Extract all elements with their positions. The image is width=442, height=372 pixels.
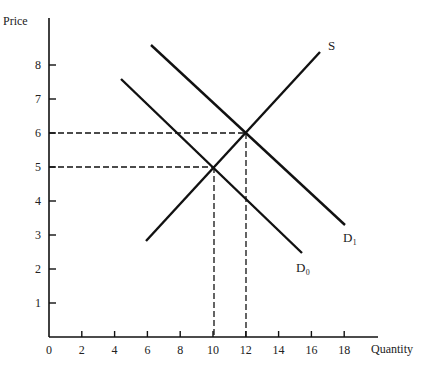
x-ticks: 024681012141618: [46, 331, 350, 357]
x-tick-label: 12: [240, 343, 252, 357]
y-tick-label: 5: [35, 160, 41, 174]
x-tick-label: 4: [112, 343, 118, 357]
y-tick-label: 4: [35, 194, 41, 208]
x-tick-label: 6: [144, 343, 150, 357]
x-tick-label: 2: [79, 343, 85, 357]
label-s: S: [328, 38, 335, 53]
x-tick-label: 0: [46, 343, 52, 357]
x-tick-label: 16: [305, 343, 317, 357]
y-tick-label: 3: [35, 228, 41, 242]
label-d0: D₀: [296, 260, 310, 275]
y-tick-label: 1: [35, 296, 41, 310]
y-ticks: 12345678: [35, 58, 56, 310]
supply-demand-chart: 024681012141618 12345678 Price Quantity …: [0, 0, 442, 372]
x-tick-label: 14: [273, 343, 285, 357]
x-tick-label: 10: [207, 343, 219, 357]
y-tick-label: 2: [35, 262, 41, 276]
demand-curve-d0: [121, 79, 302, 253]
y-axis-label: Price: [3, 14, 28, 28]
label-d1: D₁: [343, 230, 357, 245]
y-tick-label: 6: [35, 126, 41, 140]
y-tick-label: 8: [35, 58, 41, 72]
x-tick-label: 18: [338, 343, 350, 357]
x-tick-label: 8: [177, 343, 183, 357]
x-axis-label: Quantity: [371, 342, 413, 356]
y-tick-label: 7: [35, 92, 41, 106]
supply-curve-s: [146, 52, 320, 241]
